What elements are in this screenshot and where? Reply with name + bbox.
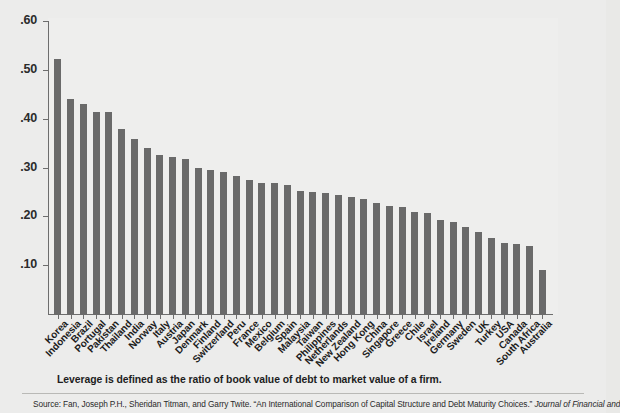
y-axis-tick-label: .60	[20, 13, 37, 27]
bar	[360, 199, 367, 315]
bar	[156, 155, 163, 315]
bar	[80, 104, 87, 315]
bar	[437, 220, 444, 315]
y-axis-tick: .10	[43, 265, 49, 266]
bar	[386, 206, 393, 315]
bar	[488, 238, 495, 315]
source-text: Source: Fan, Joseph P.H., Sheridan Titma…	[33, 399, 534, 409]
bar	[233, 176, 240, 315]
bar	[399, 207, 406, 315]
bar	[284, 185, 291, 315]
bar	[207, 170, 214, 315]
bar	[93, 112, 100, 315]
bar	[309, 192, 316, 315]
bar	[322, 193, 329, 315]
bar	[462, 227, 469, 315]
bar	[475, 232, 482, 315]
source-divider	[22, 393, 584, 394]
bar	[182, 159, 189, 315]
y-axis-tick-label: .30	[20, 160, 37, 174]
bar	[526, 246, 533, 315]
source-journal: Journal of Financial and	[534, 399, 620, 409]
bar	[105, 112, 112, 315]
bar	[131, 139, 138, 315]
y-axis-tick-label: .20	[20, 208, 37, 222]
bar	[169, 157, 176, 315]
bar	[54, 59, 61, 315]
y-axis-tick-label: .10	[20, 257, 37, 271]
y-axis-tick: .30	[43, 168, 49, 169]
bar	[348, 197, 355, 315]
x-axis-labels: KoreaIndonesiaBrazilPortugalPakistanThai…	[48, 318, 558, 376]
bar	[373, 203, 380, 315]
y-axis-tick: .50	[43, 70, 49, 71]
bar	[450, 222, 457, 315]
bar	[335, 195, 342, 315]
y-axis-tick-label: .50	[20, 62, 37, 76]
plot-area: .60.50.40.30.20.10	[48, 18, 558, 315]
bar	[271, 183, 278, 315]
bar	[539, 270, 546, 315]
bar	[411, 212, 418, 315]
bar	[513, 244, 520, 315]
bar	[258, 183, 265, 315]
bar	[501, 243, 508, 315]
bar	[118, 129, 125, 315]
bar	[246, 180, 253, 315]
y-axis-tick: .40	[43, 119, 49, 120]
bar	[67, 99, 74, 315]
y-axis-tick-label: .40	[20, 111, 37, 125]
y-axis-tick: .60	[43, 21, 49, 22]
bar	[424, 213, 431, 315]
figure-caption: Leverage is defined as the ratio of book…	[57, 374, 442, 385]
figure-source: Source: Fan, Joseph P.H., Sheridan Titma…	[33, 399, 620, 409]
bar	[220, 172, 227, 315]
y-axis-tick: .20	[43, 216, 49, 217]
bar	[195, 168, 202, 315]
bar	[297, 191, 304, 315]
bar	[144, 148, 151, 315]
